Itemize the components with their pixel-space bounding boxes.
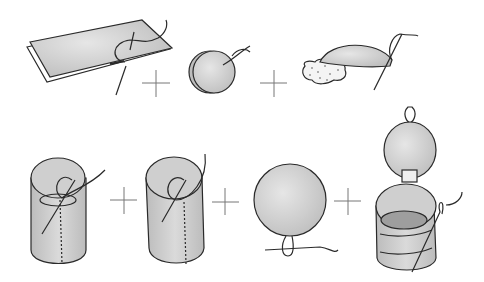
stacked-fabric-circles-illustration (189, 46, 250, 93)
plus-icon (142, 70, 170, 97)
plus-icon (334, 188, 361, 215)
folded-fabric-strip-illustration (27, 20, 172, 95)
finished-container-illustration (376, 107, 462, 272)
stuffed-circle-pad-illustration (303, 34, 418, 90)
lid-circle-with-loop-illustration (254, 164, 338, 256)
plus-icon (212, 188, 239, 215)
plus-icon (260, 70, 287, 97)
cylinder-with-base-illustration (146, 154, 205, 264)
plus-icon (110, 187, 137, 214)
sewn-cylinder-illustration (31, 158, 105, 264)
sewing-steps-diagram (0, 0, 484, 282)
